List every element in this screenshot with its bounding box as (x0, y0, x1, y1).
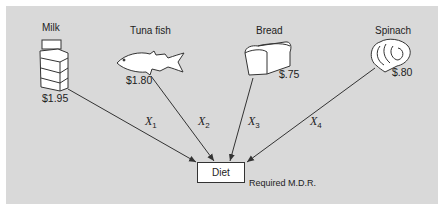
item-label-tuna-fish: Tuna fish (130, 25, 171, 36)
price-spinach: $.80 (392, 66, 412, 78)
item-label-bread: Bread (256, 25, 283, 36)
price-milk: $1.95 (42, 92, 68, 104)
variable-x2: X2 (198, 114, 210, 130)
arrow-milk-to-diet (68, 89, 196, 162)
item-label-milk: Milk (42, 22, 60, 33)
variable-x4: X4 (310, 114, 322, 130)
milk-carton-icon (40, 40, 68, 91)
diet-box: Diet (197, 162, 245, 183)
required-mdr-label: Required M.D.R. (249, 178, 316, 188)
price-tuna-fish: $1.80 (126, 74, 152, 86)
item-label-spinach: Spinach (375, 25, 411, 36)
fish-icon (117, 51, 184, 75)
variable-x3: X3 (248, 114, 260, 130)
price-bread: $.75 (279, 68, 299, 80)
variable-x1: X1 (145, 114, 157, 130)
diet-label: Diet (212, 167, 230, 178)
